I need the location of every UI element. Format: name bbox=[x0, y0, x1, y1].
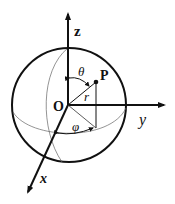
radius-line bbox=[68, 82, 96, 105]
origin-label: O bbox=[53, 99, 64, 114]
theta-label: θ bbox=[78, 64, 85, 79]
x-axis bbox=[28, 105, 68, 192]
equator-line bbox=[13, 108, 126, 133]
spherical-coordinates-diagram: z y x O P r θ φ bbox=[0, 0, 175, 204]
z-axis-label: z bbox=[74, 23, 81, 39]
y-axis-label: y bbox=[137, 111, 147, 129]
x-axis-label: x bbox=[39, 171, 47, 186]
phi-label: φ bbox=[72, 119, 79, 134]
point-p bbox=[94, 80, 99, 85]
radius-label: r bbox=[84, 89, 90, 104]
point-label: P bbox=[100, 68, 109, 83]
